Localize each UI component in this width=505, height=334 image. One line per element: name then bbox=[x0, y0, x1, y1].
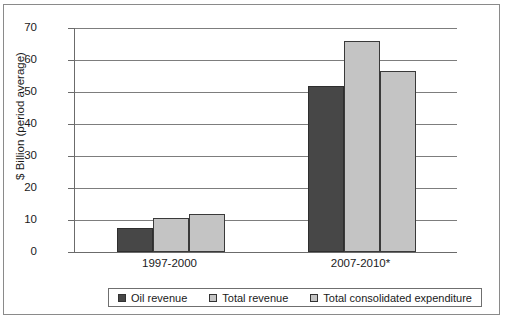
plot-area bbox=[74, 28, 457, 253]
gridline bbox=[75, 60, 457, 61]
chart-legend: Oil revenueTotal revenueTotal consolidat… bbox=[108, 288, 482, 307]
x-tick-label: 1997-2000 bbox=[110, 257, 230, 269]
bar-20072010-series1 bbox=[344, 41, 380, 252]
y-tick-label: 10 bbox=[9, 214, 37, 225]
y-tick-label: 40 bbox=[9, 118, 37, 129]
y-tick-label: 60 bbox=[9, 54, 37, 65]
y-tick-label: 20 bbox=[9, 182, 37, 193]
legend-item[interactable]: Total consolidated expenditure bbox=[310, 292, 472, 304]
chart-figure-frame: $ Billion (period average) 0102030405060… bbox=[3, 4, 500, 315]
legend-swatch-icon bbox=[209, 294, 217, 302]
legend-label: Total consolidated expenditure bbox=[323, 292, 472, 304]
legend-label: Oil revenue bbox=[131, 292, 187, 304]
legend-swatch-icon bbox=[310, 294, 318, 302]
y-tick-label: 30 bbox=[9, 150, 37, 161]
legend-label: Total revenue bbox=[222, 292, 288, 304]
x-tick-label: 2007-2010* bbox=[301, 257, 421, 269]
bar-20072010-series0 bbox=[308, 86, 344, 252]
legend-item[interactable]: Oil revenue bbox=[118, 292, 187, 304]
gridline bbox=[75, 28, 457, 29]
bar-19972000-series0 bbox=[117, 228, 153, 252]
legend-swatch-icon bbox=[118, 294, 126, 302]
bar-20072010-series2 bbox=[380, 71, 416, 252]
y-tick-label: 0 bbox=[9, 246, 37, 257]
y-tick-label: 70 bbox=[9, 22, 37, 33]
legend-item[interactable]: Total revenue bbox=[209, 292, 288, 304]
bar-19972000-series1 bbox=[153, 218, 189, 252]
y-tick-label: 50 bbox=[9, 86, 37, 97]
bar-19972000-series2 bbox=[189, 214, 225, 252]
